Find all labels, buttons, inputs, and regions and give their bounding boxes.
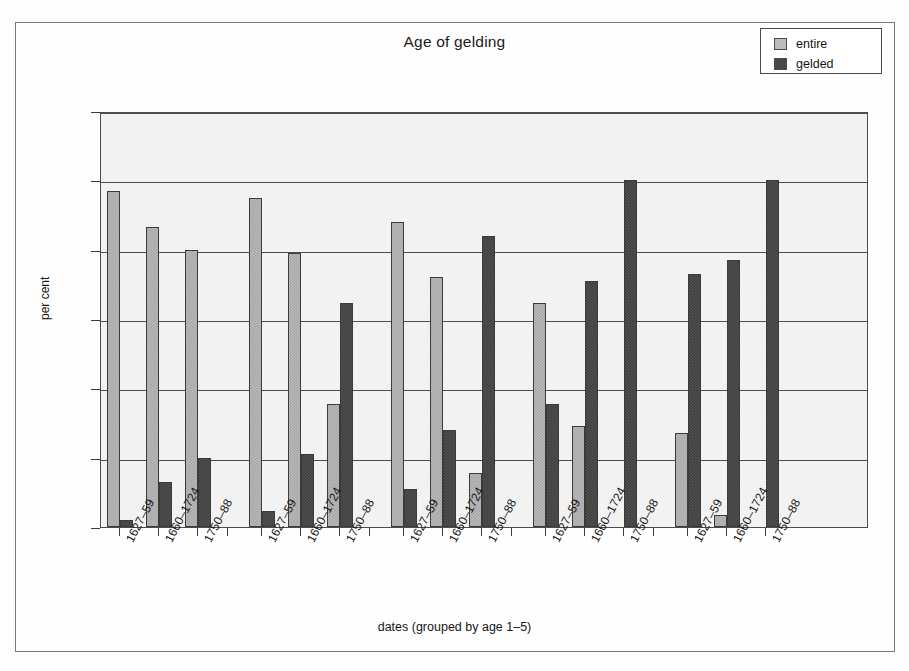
legend-label-entire: entire — [796, 38, 827, 50]
x-axis-title: dates (grouped by age 1–5) — [0, 620, 909, 634]
bar-gelded-group4-1660–1724 — [585, 281, 598, 527]
bar-entire-group4-1627–59 — [533, 303, 546, 527]
x-tick-mark-9 — [481, 528, 482, 536]
legend-item-gelded: gelded — [774, 55, 881, 72]
x-tick-mark-4 — [261, 528, 262, 536]
gridline-120 — [101, 113, 867, 114]
x-tick-mark-6 — [339, 528, 340, 536]
bar-entire-group3-1660–1724 — [430, 277, 443, 527]
bar-gelded-group4-1627–59 — [546, 404, 559, 527]
bar-entire-group5-1627–59 — [675, 433, 688, 527]
x-group-separator-tick-2 — [369, 528, 370, 536]
y-tick-mark-20 — [91, 459, 100, 460]
bar-entire-group2-1627–59 — [249, 198, 262, 527]
bar-entire-group1-1660–1724 — [146, 227, 159, 527]
x-tick-mark-3 — [197, 528, 198, 536]
x-tick-mark-10 — [545, 528, 546, 536]
bar-gelded-group4-1750–88 — [624, 180, 637, 527]
bar-entire-group3-1627–59 — [391, 222, 404, 527]
x-tick-mark-7 — [403, 528, 404, 536]
legend-item-entire: entire — [774, 35, 881, 52]
y-tick-mark-60 — [91, 320, 100, 321]
x-group-separator-tick-3 — [511, 528, 512, 536]
y-tick-mark-100 — [91, 181, 100, 182]
chart-figure: Age of gelding entire gelded per cent 02… — [0, 0, 909, 671]
bar-gelded-group5-1660–1724 — [727, 260, 740, 527]
x-tick-mark-14 — [726, 528, 727, 536]
y-tick-mark-120 — [91, 112, 100, 113]
legend-swatch-gelded — [774, 58, 787, 70]
x-tick-mark-8 — [442, 528, 443, 536]
legend-swatch-entire — [774, 38, 787, 50]
x-group-separator-tick-4 — [653, 528, 654, 536]
bar-gelded-group3-1750–88 — [482, 236, 495, 527]
y-tick-mark-80 — [91, 251, 100, 252]
x-tick-mark-15 — [765, 528, 766, 536]
chart-legend: entire gelded — [760, 28, 882, 74]
bar-entire-group2-1660–1724 — [288, 253, 301, 527]
y-tick-mark-40 — [91, 389, 100, 390]
bar-gelded-group2-1660–1724 — [301, 454, 314, 527]
x-tick-mark-2 — [158, 528, 159, 536]
bar-gelded-group5-1627–59 — [688, 274, 701, 527]
x-tick-mark-11 — [584, 528, 585, 536]
legend-label-gelded: gelded — [796, 58, 834, 70]
plot-area — [100, 112, 868, 528]
x-tick-mark-5 — [300, 528, 301, 536]
y-tick-mark-0 — [91, 528, 100, 529]
x-tick-mark-13 — [687, 528, 688, 536]
x-group-separator-tick-1 — [227, 528, 228, 536]
x-tick-mark-12 — [623, 528, 624, 536]
y-axis-title: per cent — [38, 277, 52, 320]
gridline-100 — [101, 182, 867, 183]
plot-inner — [101, 113, 867, 527]
x-tick-mark-1 — [119, 528, 120, 536]
bar-gelded-group3-1660–1724 — [443, 430, 456, 527]
bar-entire-group1-1627–59 — [107, 191, 120, 527]
bar-gelded-group5-1750–88 — [766, 180, 779, 527]
